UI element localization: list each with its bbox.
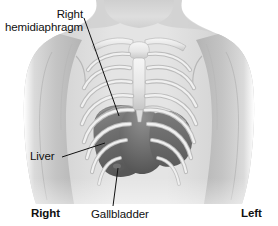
label-hemidiaphragm-line1: Right xyxy=(3,8,83,21)
label-side-left: Left xyxy=(241,207,262,220)
label-gallbladder: Gallbladder xyxy=(91,208,149,221)
label-hemidiaphragm-line2: hemidiaphragm xyxy=(3,21,83,34)
manubrium xyxy=(129,42,150,60)
anatomy-figure: Right hemidiaphragm Liver Gallbladder Ri… xyxy=(0,0,278,226)
label-liver: Liver xyxy=(30,150,54,163)
torso-illustration xyxy=(0,0,278,226)
sternum xyxy=(133,58,145,110)
label-side-right: Right xyxy=(31,207,60,220)
label-right-hemidiaphragm: Right hemidiaphragm xyxy=(3,8,83,33)
